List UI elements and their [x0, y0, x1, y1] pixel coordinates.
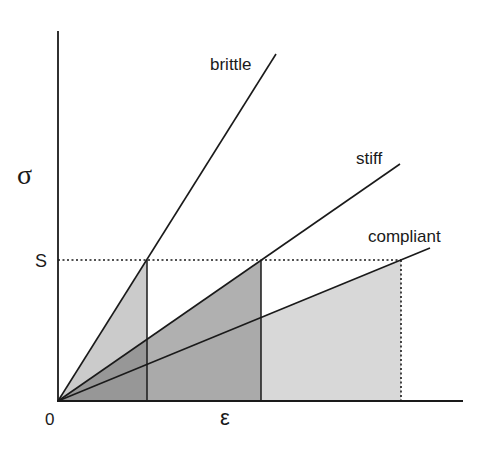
y-axis-label-sigma: σ — [17, 159, 32, 190]
brittle-label: brittle — [210, 55, 252, 74]
x-axis-label-epsilon: ε — [220, 405, 230, 430]
stiff-label: stiff — [356, 149, 382, 168]
origin-label: 0 — [45, 410, 54, 429]
stress-level-label: S — [35, 251, 47, 271]
compliant-label: compliant — [368, 227, 441, 246]
stress-strain-diagram: brittle stiff compliant σ S 0 ε — [0, 0, 478, 450]
